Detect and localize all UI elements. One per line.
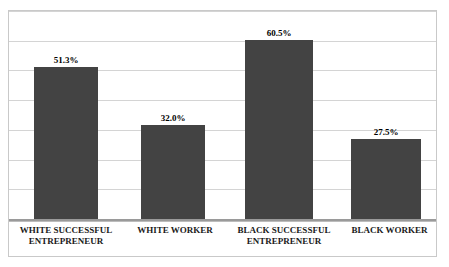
bar-value-label: 27.5% [337,127,435,137]
category-label-white-successful-entrepreneur: WHITE SUCCESSFUL ENTREPRENEUR [9,225,123,247]
bar-white-worker[interactable] [141,125,205,221]
category-label-line2: ENTREPRENEUR [9,236,123,247]
bar-group-white-successful-entrepreneur: 51.3% [34,11,98,221]
bar-black-successful-entrepreneur[interactable] [245,40,313,222]
category-label-black-worker: BLACK WORKER [341,225,438,236]
bar-value-label: 32.0% [127,113,219,123]
category-axis: WHITE SUCCESSFUL ENTREPRENEUR WHITE WORK… [9,221,436,257]
category-label-white-worker: WHITE WORKER [123,225,227,236]
bar-black-worker[interactable] [351,139,421,222]
plot-area: 51.3% 32.0% 60.5% 27.5% [9,11,436,221]
bar-value-label: 51.3% [20,55,112,65]
category-label-line1: BLACK WORKER [351,225,427,235]
bars-layer: 51.3% 32.0% 60.5% 27.5% [9,11,436,221]
category-label-line1: WHITE WORKER [137,225,213,235]
bar-group-black-worker: 27.5% [351,11,421,221]
category-label-line1: BLACK SUCCESSFUL [238,225,331,235]
bar-white-successful-entrepreneur[interactable] [34,67,98,221]
category-label-black-successful-entrepreneur: BLACK SUCCESSFUL ENTREPRENEUR [227,225,341,247]
bar-value-label: 60.5% [231,28,327,38]
chart-frame: 51.3% 32.0% 60.5% 27.5% WHITE SUCCESSFUL… [8,10,437,257]
bar-group-white-worker: 32.0% [141,11,205,221]
category-label-line2: ENTREPRENEUR [227,236,341,247]
category-label-line1: WHITE SUCCESSFUL [20,225,112,235]
bar-group-black-successful-entrepreneur: 60.5% [245,11,313,221]
